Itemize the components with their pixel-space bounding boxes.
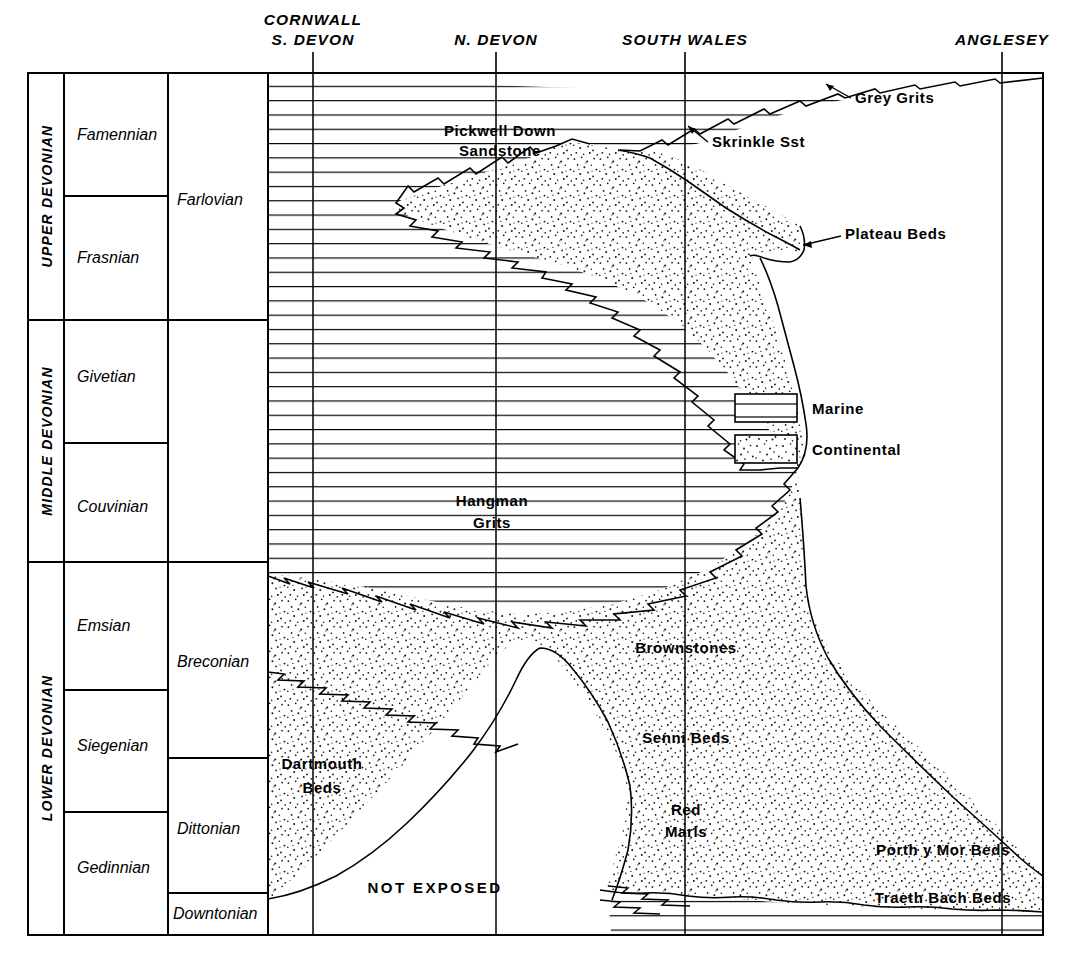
formation-label-porth-y-mor-beds: Porth y Mor Beds (876, 841, 1010, 858)
formation-label-hangman-grits-line1: Hangman (456, 492, 529, 509)
stage-label-emsian: Emsian (77, 617, 130, 634)
formation-label-brownstones: Brownstones (635, 639, 737, 656)
locality-header-cornwall-s-devon-line2: S. DEVON (272, 31, 355, 48)
series-label-dittonian: Dittonian (177, 820, 240, 837)
legend-swatch-marine (735, 394, 797, 422)
formation-label-dartmouth-beds-line1: Dartmouth (281, 755, 362, 772)
stage-label-givetian: Givetian (77, 368, 136, 385)
formation-label-pickwell-down-sandstone-line2: Sandstone (459, 142, 541, 159)
formation-label-dartmouth-beds-line2: Beds (302, 779, 341, 796)
system-label-upper-devonian: UPPER DEVONIAN (39, 125, 55, 268)
figure-canvas: CORNWALL S. DEVON N. DEVON SOUTH WALES A… (0, 0, 1068, 955)
locality-header-cornwall-s-devon-line1: CORNWALL (264, 11, 362, 28)
formation-label-traeth-bach-beds: Traeth Bach Beds (875, 889, 1011, 906)
stratigraphic-correlation-figure: CORNWALL S. DEVON N. DEVON SOUTH WALES A… (0, 0, 1068, 955)
system-label-lower-devonian: LOWER DEVONIAN (39, 675, 55, 822)
series-label-farlovian: Farlovian (177, 191, 243, 208)
series-label-breconian: Breconian (177, 653, 249, 670)
formation-label-skrinkle-sst: Skrinkle Sst (712, 133, 805, 150)
system-label-middle-devonian: MIDDLE DEVONIAN (39, 366, 55, 515)
formation-label-not-exposed: NOT EXPOSED (368, 879, 503, 896)
formation-label-pickwell-down-sandstone-line1: Pickwell Down (444, 122, 556, 139)
facies-panel (268, 73, 1043, 935)
formation-label-grey-grits: Grey Grits (855, 89, 934, 106)
locality-header-anglesey: ANGLESEY (954, 31, 1050, 48)
stage-label-gedinnian: Gedinnian (77, 859, 150, 876)
locality-header-south-wales: SOUTH WALES (622, 31, 748, 48)
formation-label-plateau-beds: Plateau Beds (845, 225, 946, 242)
locality-headers: CORNWALL S. DEVON N. DEVON SOUTH WALES A… (264, 11, 1050, 48)
stage-label-frasnian: Frasnian (77, 249, 139, 266)
legend-label-marine: Marine (812, 400, 864, 417)
legend-label-continental: Continental (812, 441, 901, 458)
stage-labels: Famennian Frasnian Givetian Couvinian Em… (77, 126, 157, 876)
formation-label-red-marls-line1: Red (671, 801, 701, 818)
series-labels: Farlovian Breconian Dittonian Downtonian (173, 191, 258, 922)
legend-swatch-continental (735, 435, 797, 463)
system-labels: UPPER DEVONIAN MIDDLE DEVONIAN LOWER DEV… (39, 125, 55, 822)
stage-label-famennian: Famennian (77, 126, 157, 143)
series-label-downtonian: Downtonian (173, 905, 258, 922)
locality-header-n-devon: N. DEVON (454, 31, 538, 48)
locality-header-ticks (313, 52, 1002, 73)
stage-label-siegenian: Siegenian (77, 737, 148, 754)
stage-label-couvinian: Couvinian (77, 498, 148, 515)
formation-label-senni-beds: Senni Beds (642, 729, 730, 746)
formation-label-hangman-grits-line2: Grits (473, 514, 511, 531)
formation-label-red-marls-line2: Marls (665, 823, 707, 840)
